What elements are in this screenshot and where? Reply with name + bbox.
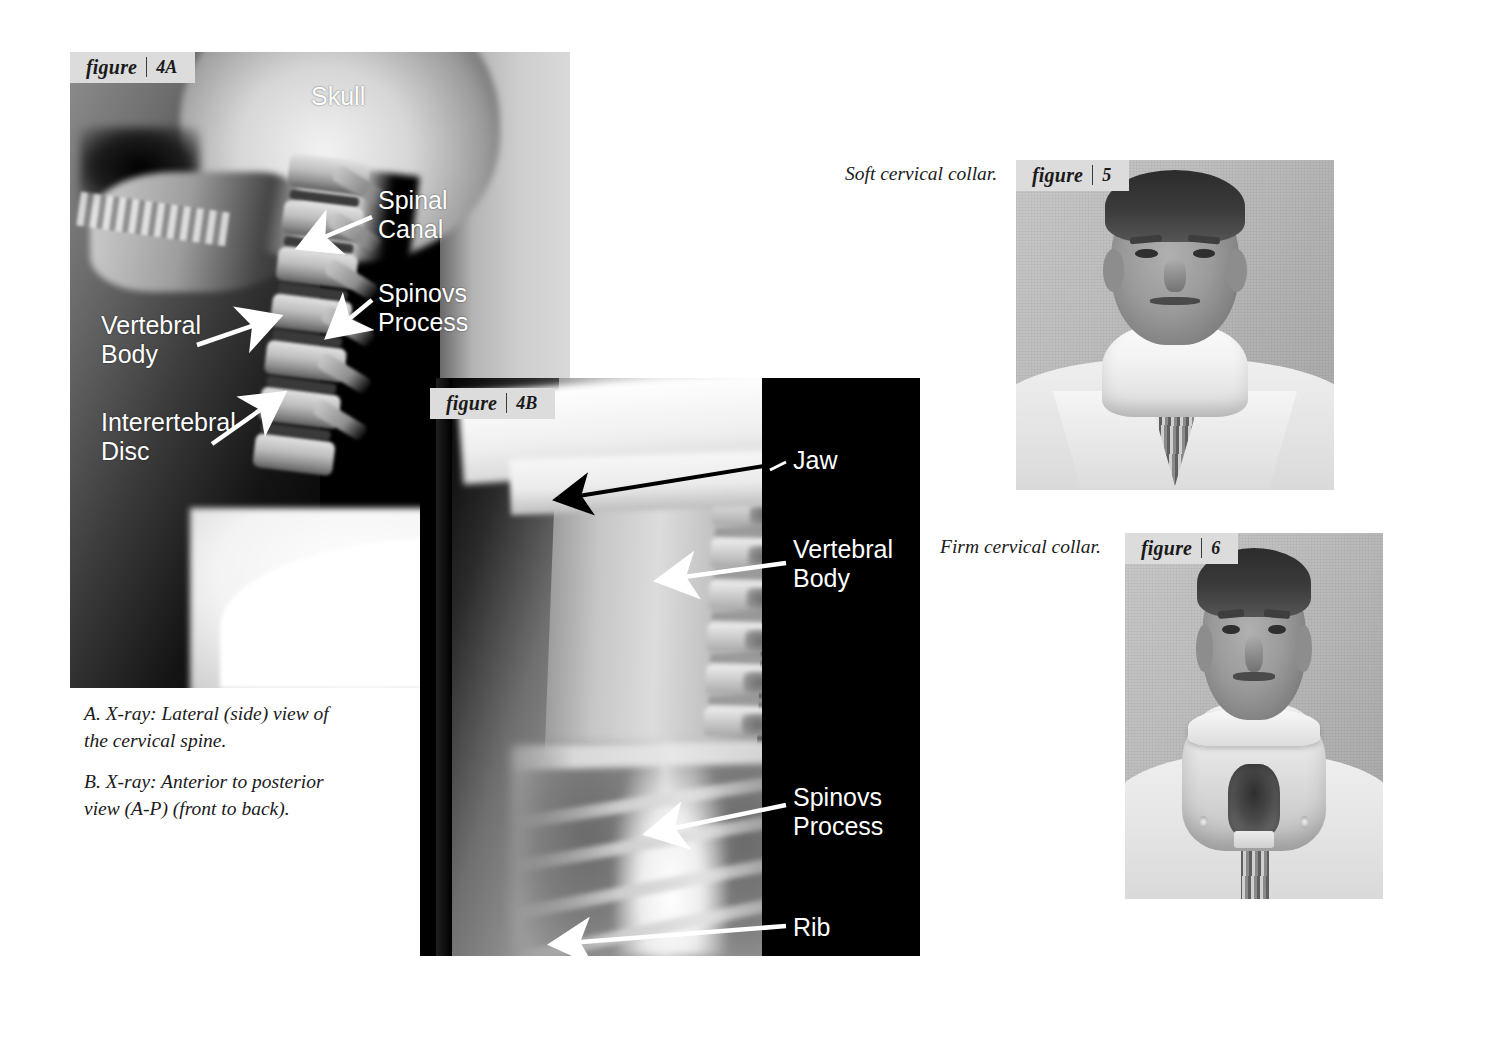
- collar-stud-right: [1300, 816, 1309, 828]
- figure-5-photo: [1016, 160, 1334, 490]
- left-shadow-band: [436, 378, 452, 956]
- figure-6-badge: figure 6: [1125, 533, 1238, 564]
- ear-right: [1226, 249, 1247, 292]
- caption-figure-5: Soft cervical collar.: [845, 160, 997, 187]
- left-black-border: [420, 378, 436, 956]
- label-interertebral-disc: InterertebralDisc: [101, 408, 236, 466]
- caption-a: A. X-ray: Lateral (side) view of the cer…: [84, 700, 384, 754]
- figure-word: figure: [86, 57, 137, 77]
- badge-separator: [146, 57, 147, 77]
- figure-page: figure 4A Skull SpinalCanal SpinovsProce…: [0, 0, 1508, 1051]
- nose: [1164, 259, 1186, 292]
- figure-word: figure: [446, 393, 497, 413]
- figure-number: 6: [1211, 539, 1220, 557]
- figure-4b-badge: figure 4B: [430, 388, 555, 419]
- figure-4a-badge: figure 4A: [70, 52, 195, 83]
- figure-5-badge: figure 5: [1016, 160, 1129, 191]
- figure-number: 5: [1102, 166, 1111, 184]
- ear-left: [1103, 249, 1124, 292]
- ear-right: [1295, 625, 1312, 673]
- collar-stud-left: [1199, 816, 1208, 828]
- caption-figure-6: Firm cervical collar.: [940, 533, 1101, 560]
- tracheal-opening: [1228, 764, 1280, 837]
- figure-4b-xray-image: [420, 378, 920, 956]
- collar-strap-label: [1234, 831, 1274, 849]
- figure-number: 4A: [156, 58, 177, 76]
- label-spinal-canal: SpinalCanal: [378, 186, 448, 244]
- figure-word: figure: [1032, 165, 1083, 185]
- figure-number: 4B: [516, 394, 537, 412]
- nose: [1245, 635, 1263, 672]
- ear-left: [1196, 625, 1213, 673]
- eye-right: [1193, 249, 1215, 258]
- label-jaw: Jaw: [793, 446, 837, 475]
- caption-b: B. X-ray: Anterior to posterior view (A-…: [84, 768, 384, 822]
- eye-left: [1135, 249, 1157, 258]
- label-skull: Skull: [311, 82, 365, 111]
- badge-separator: [506, 393, 507, 413]
- label-rib: Rib: [793, 913, 831, 942]
- label-vertebral-body-4a: VertebralBody: [101, 311, 201, 369]
- label-spinovs-process-4b: SpinovsProcess: [793, 783, 883, 841]
- badge-separator: [1092, 165, 1093, 185]
- eye-left: [1222, 625, 1240, 635]
- firm-cervical-collar: [1182, 705, 1326, 851]
- label-spinovs-process-4a: SpinovsProcess: [378, 279, 468, 337]
- right-black-border: [762, 378, 920, 956]
- label-vertebral-body-4b: VertebralBody: [793, 535, 893, 593]
- figure-word: figure: [1141, 538, 1192, 558]
- mouth: [1150, 297, 1201, 305]
- figure-6-photo: [1125, 533, 1383, 899]
- eye-right: [1268, 625, 1286, 635]
- mouth: [1233, 672, 1274, 681]
- badge-separator: [1201, 538, 1202, 558]
